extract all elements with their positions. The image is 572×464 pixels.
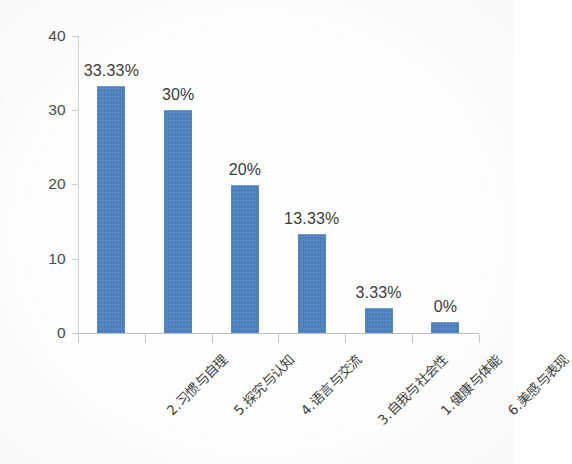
y-tick-0: 0 <box>18 324 66 342</box>
bar-group-1: 30% <box>145 36 212 333</box>
bar-group-4: 3.33% <box>345 36 412 333</box>
bar-value-label: 20% <box>229 161 262 179</box>
x-tick-mark <box>345 334 346 343</box>
y-tick-label: 20 <box>18 175 66 193</box>
x-tick-mark <box>212 334 213 343</box>
x-tick-mark <box>278 334 279 343</box>
y-tick-30: 30 <box>18 101 66 119</box>
y-tick-label: 40 <box>18 27 66 45</box>
bar-group-5: 0% <box>412 36 479 333</box>
x-tick-mark <box>412 334 413 343</box>
bar[interactable] <box>164 110 192 333</box>
bar[interactable] <box>231 185 259 334</box>
category-label-5: 6.美感与表现 <box>502 349 572 419</box>
bar-value-label: 0% <box>434 298 458 316</box>
category-label-1: 5.探究与认知 <box>228 349 298 419</box>
y-tick-label: 30 <box>18 101 66 119</box>
bar[interactable] <box>298 234 326 333</box>
y-tick-label: 0 <box>18 324 66 342</box>
bar-value-label: 13.33% <box>284 210 339 228</box>
x-tick-mark <box>78 334 79 343</box>
category-label-2: 4.语言与交流 <box>295 349 365 419</box>
y-tick-10: 10 <box>18 250 66 268</box>
category-label-0: 2.习惯与自理 <box>161 349 231 419</box>
bar-group-0: 33.33% <box>78 36 145 333</box>
bar[interactable] <box>431 322 459 333</box>
bar-group-3: 13.33% <box>278 36 345 333</box>
x-tick-mark <box>145 334 146 343</box>
y-tick-20: 20 <box>18 175 66 193</box>
y-tick-label: 10 <box>18 250 66 268</box>
bar-value-label: 33.33% <box>84 62 139 80</box>
y-tick-40: 40 <box>18 27 66 45</box>
bar-value-label: 30% <box>162 86 195 104</box>
bar-group-2: 20% <box>212 36 279 333</box>
plot-area: 33.33% 30% 20% 13.33% 3.33% 0% <box>78 36 479 333</box>
x-tick-mark <box>479 334 480 343</box>
category-label-3: 3.自我与社会性 <box>372 349 452 429</box>
bar[interactable] <box>365 308 393 333</box>
bar-value-label: 3.33% <box>355 284 401 302</box>
bar[interactable] <box>97 86 125 334</box>
